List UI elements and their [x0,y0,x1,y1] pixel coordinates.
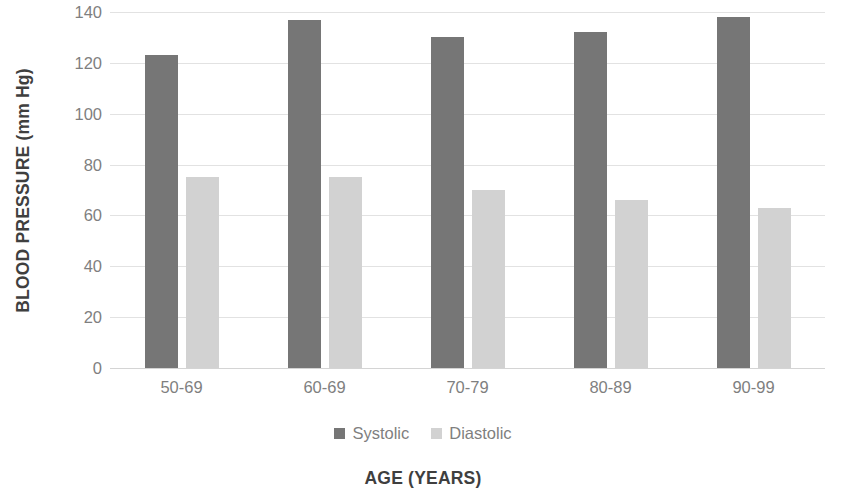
x-tick-label: 80-89 [589,378,631,397]
bar-systolic-80-89 [574,32,607,368]
x-axis-title: AGE (YEARS) [0,468,846,489]
bar-diastolic-90-99 [758,208,791,368]
bar-diastolic-50-69 [186,177,219,368]
bar-systolic-60-69 [288,20,321,368]
x-axis-tick-labels: 50-6960-6970-7980-8990-99 [110,378,825,404]
gridline-0 [110,368,825,369]
x-tick-label: 70-79 [446,378,488,397]
x-tick-label: 50-69 [160,378,202,397]
x-tick-label: 90-99 [732,378,774,397]
legend-label: Diastolic [449,424,511,443]
legend-item-diastolic[interactable]: Diastolic [431,424,511,443]
y-tick-label: 80 [84,155,102,174]
bar-diastolic-70-79 [472,190,505,368]
y-tick-label: 0 [93,359,102,378]
y-axis-title: BLOOD PRESSURE (mm Hg) [0,0,46,380]
plot-area [110,12,825,368]
bar-diastolic-60-69 [329,177,362,368]
legend: SystolicDiastolic [0,424,846,443]
y-tick-label: 60 [84,206,102,225]
bar-systolic-90-99 [717,17,750,368]
legend-label: Systolic [352,424,409,443]
y-tick-label: 100 [74,104,102,123]
y-axis-title-text: BLOOD PRESSURE (mm Hg) [13,68,34,313]
legend-swatch-icon [334,428,345,439]
y-tick-label: 20 [84,308,102,327]
legend-swatch-icon [431,428,442,439]
bar-diastolic-80-89 [615,200,648,368]
bars-layer [110,12,825,368]
bar-systolic-50-69 [145,55,178,368]
bar-chart: BLOOD PRESSURE (mm Hg) 14012010080604020… [0,0,846,504]
x-tick-label: 60-69 [303,378,345,397]
y-tick-label: 120 [74,53,102,72]
legend-item-systolic[interactable]: Systolic [334,424,409,443]
y-axis-tick-labels: 140120100806040200 [46,12,102,368]
bar-systolic-70-79 [431,37,464,368]
y-tick-label: 140 [74,3,102,22]
y-tick-label: 40 [84,257,102,276]
